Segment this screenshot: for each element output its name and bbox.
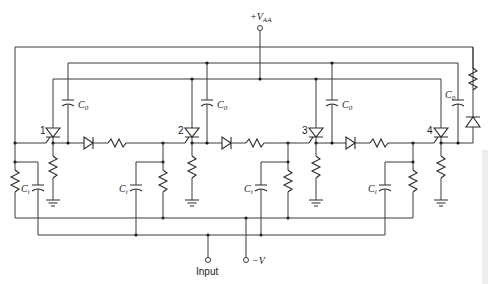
svg-text:C0: C0 xyxy=(445,89,456,102)
c0-capacitor-2: C0 xyxy=(201,99,228,143)
svg-text:C0: C0 xyxy=(217,99,228,112)
steering-diode-2 xyxy=(222,137,264,149)
svg-text:C0: C0 xyxy=(78,99,89,112)
gate-network-4: Ci xyxy=(368,143,417,235)
neg-supply-terminal: −V xyxy=(244,218,267,266)
scr-4: 4 xyxy=(427,125,448,143)
c0-bus-wire xyxy=(68,63,458,100)
vaa-label: +VAA xyxy=(250,11,272,24)
steering-diode-1 xyxy=(84,137,126,149)
steering-diode-3 xyxy=(346,137,388,149)
scr-1: 1 xyxy=(40,125,60,143)
svg-text:4: 4 xyxy=(427,125,433,136)
svg-text:Ci: Ci xyxy=(119,183,128,196)
svg-text:−V: −V xyxy=(252,255,267,266)
cathode-resistor-2 xyxy=(185,143,199,206)
svg-text:2: 2 xyxy=(178,125,184,136)
cathode-resistor-4 xyxy=(434,143,448,206)
scr-2: 2 xyxy=(178,125,199,143)
anode-bus-wire xyxy=(53,79,441,128)
gate-network-2: Ci xyxy=(119,143,167,237)
gate-network-1: Ci xyxy=(11,143,44,235)
c0-capacitor-4: C0 xyxy=(445,89,464,143)
cathode-resistor-1 xyxy=(46,143,60,206)
scr-3: 3 xyxy=(302,125,323,143)
svg-text:Input: Input xyxy=(196,266,218,277)
c0-capacitor-3: C0 xyxy=(326,99,353,143)
svg-text:3: 3 xyxy=(302,125,308,136)
circuit-schematic: +VAA C0 C0 C0 C0 1 xyxy=(0,0,488,284)
page-edge-shadow xyxy=(482,150,488,284)
outer-feedback-wire xyxy=(15,47,473,143)
svg-text:Ci: Ci xyxy=(244,183,253,196)
vaa-terminal xyxy=(258,26,263,31)
input-terminal: Input xyxy=(196,235,218,277)
cathode-resistor-3 xyxy=(309,143,323,206)
svg-text:1: 1 xyxy=(40,125,46,136)
c0-capacitor-1: C0 xyxy=(62,99,89,143)
gate-network-3: Ci xyxy=(244,143,292,237)
svg-text:C0: C0 xyxy=(342,99,353,112)
svg-text:Ci: Ci xyxy=(368,183,377,196)
svg-text:Ci: Ci xyxy=(21,183,30,196)
